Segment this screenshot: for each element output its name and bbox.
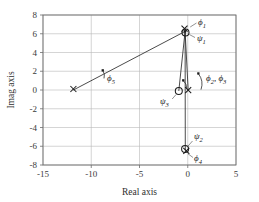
x-tick-label-1: -10	[85, 169, 97, 179]
y-tick-label-7: -6	[30, 141, 38, 151]
y-tick-label-6: -4	[30, 123, 38, 133]
label-psi3: ψ3	[160, 96, 170, 108]
x-tick-label-0: -15	[37, 169, 49, 179]
y-tick-label-4: 0	[33, 85, 38, 95]
y-axis-title: Imag axis	[6, 71, 16, 109]
x-axis-title: Real axis	[122, 187, 157, 197]
leader-phi4	[188, 154, 193, 158]
y-tick-label-1: 6	[33, 29, 38, 39]
x-tick-label-2: -5	[136, 169, 144, 179]
x-tick-labels: -15 -10 -5 0 5	[37, 169, 239, 179]
angle-vectors	[73, 31, 188, 150]
y-tick-label-2: 4	[33, 48, 38, 58]
plot-canvas: -15 -10 -5 0 5 8 6 4 2 0 -2 -4 -6 -8 Rea…	[0, 0, 259, 202]
y-tick-label-8: -8	[30, 160, 38, 170]
x-tick-label-3: 0	[186, 169, 191, 179]
label-psi1: ψ1	[197, 33, 206, 45]
arc-dot-psi3	[182, 79, 184, 81]
label-phi1: ϕ1	[198, 17, 206, 29]
arc-dot-phi2-phi3	[197, 72, 199, 74]
arc-dot-phi5	[102, 69, 104, 71]
y-tick-label-0: 8	[33, 10, 38, 20]
leader-psi1	[189, 35, 195, 38]
label-phi2-phi3: ϕ2, ϕ3	[206, 73, 227, 85]
y-tick-labels: 8 6 4 2 0 -2 -4 -6 -8	[30, 10, 38, 170]
tick-marks	[40, 15, 188, 168]
pole-zero-plot-figure: -15 -10 -5 0 5 8 6 4 2 0 -2 -4 -6 -8 Rea…	[0, 0, 259, 202]
leader-phi1	[190, 23, 196, 27]
x-tick-label-4: 5	[234, 169, 239, 179]
test-point-marker	[184, 30, 186, 32]
label-psi2: ψ2	[194, 131, 204, 143]
leader-psi2	[188, 141, 193, 146]
y-tick-label-5: -2	[30, 104, 38, 114]
leader-psi3	[172, 95, 176, 99]
label-phi5: ϕ5	[107, 73, 116, 85]
vector-from-pole-left	[73, 31, 185, 90]
label-phi4: ϕ4	[194, 153, 203, 165]
arc-phi2-phi3	[198, 74, 202, 90]
y-tick-label-3: 2	[33, 66, 38, 76]
angle-labels: ϕ1 ψ1 ϕ2, ϕ3 ψ3 ϕ5 ψ2 ϕ4	[107, 17, 227, 165]
